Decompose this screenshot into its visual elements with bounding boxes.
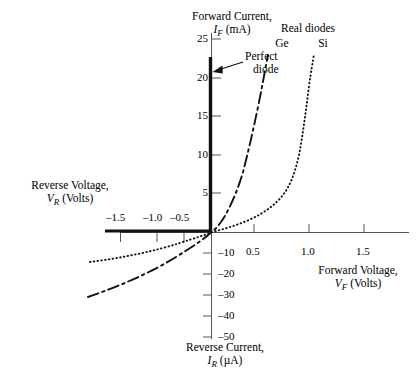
tick-label-if-25: 25 <box>188 32 208 44</box>
tick-label-ir-minus30: –30 <box>218 288 235 300</box>
tick-label-vf-1-0: 1.0 <box>301 245 315 257</box>
reverse-voltage-title-line1: Reverse Voltage, <box>5 179 135 192</box>
tick-label-if-10: 10 <box>188 148 208 160</box>
forward-voltage-axis-title: Forward Voltage, VF (Volts) <box>298 264 418 291</box>
forward-voltage-unit: (Volts) <box>347 277 381 289</box>
tick-label-vf-0-5: 0.5 <box>246 245 260 257</box>
silicon-curve-label: Si <box>313 37 333 50</box>
reverse-current-title-line1: Reverse Current, <box>165 341 285 354</box>
forward-current-ticks <box>212 39 222 193</box>
forward-current-title-line1: Forward Current, <box>172 10 292 23</box>
tick-label-vr-minus1-0: –1.0 <box>143 211 162 223</box>
germanium-curve-label: Ge <box>272 37 292 50</box>
perfect-diode-label-line2: diode <box>253 63 279 76</box>
reverse-current-axis-title: Reverse Current, IR (µA) <box>165 341 285 368</box>
perfect-diode-label-line1: Perfect <box>245 50 279 63</box>
tick-label-vf-1-5: 1.5 <box>356 245 370 257</box>
forward-voltage-symbol: V <box>335 277 342 289</box>
perfect-diode-arrow <box>213 62 244 74</box>
reverse-current-unit: (µA) <box>217 354 242 366</box>
reverse-voltage-title-line2: VR (Volts) <box>5 192 135 207</box>
tick-label-ir-minus10: –10 <box>218 246 235 258</box>
real-diodes-label: Real diodes <box>265 22 351 35</box>
forward-current-unit: (mA) <box>223 23 251 35</box>
tick-label-ir-minus20: –20 <box>218 267 235 279</box>
reverse-current-title-line2: IR (µA) <box>165 354 285 369</box>
forward-voltage-title-line1: Forward Voltage, <box>298 264 418 277</box>
tick-label-if-15: 15 <box>188 109 208 121</box>
reverse-voltage-axis-title: Reverse Voltage, VR (Volts) <box>5 179 135 206</box>
tick-label-if-20: 20 <box>188 71 208 83</box>
reverse-voltage-ticks <box>121 232 185 242</box>
reverse-current-ticks <box>203 253 212 337</box>
perfect-diode-annotation: Perfect diode <box>245 50 279 76</box>
reverse-voltage-symbol: V <box>47 192 54 204</box>
tick-label-vr-minus0-5: –0.5 <box>170 211 189 223</box>
tick-label-if-5: 5 <box>188 186 208 198</box>
forward-voltage-title-line2: VF (Volts) <box>298 277 418 292</box>
diode-characteristic-figure: Forward Current, IF (mA) 25 20 15 10 5 –… <box>0 0 419 371</box>
reverse-voltage-unit: (Volts) <box>59 192 93 204</box>
tick-label-vr-minus1-5: –1.5 <box>106 211 125 223</box>
forward-voltage-ticks <box>254 224 364 233</box>
tick-label-ir-minus40: –40 <box>218 309 235 321</box>
curve-germanium-diode <box>88 55 268 297</box>
